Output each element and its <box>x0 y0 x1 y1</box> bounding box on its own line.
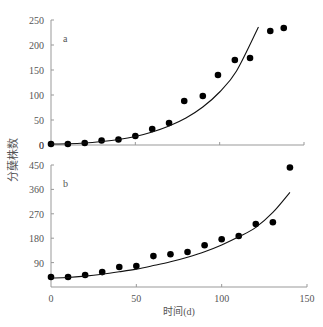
x-tick-label: 50 <box>131 293 141 304</box>
x-tick-label: 100 <box>214 293 229 304</box>
y-axis-label: 分蘖株数 <box>6 138 19 182</box>
y-tick-label: 360 <box>29 184 44 195</box>
data-point <box>270 219 277 226</box>
y-tick-label: 250 <box>29 15 44 26</box>
data-point <box>247 55 254 62</box>
data-point <box>287 164 294 171</box>
chart-svg: 0501001502002500a 9018027036045005010015… <box>0 0 323 327</box>
panel-b: 90180270360450050100150b <box>29 160 315 304</box>
x-tick-label: 150 <box>300 293 315 304</box>
data-point <box>181 98 188 105</box>
data-point <box>215 72 222 79</box>
y-tick-label: 100 <box>29 90 44 101</box>
y-tick-label: 0 <box>39 140 44 151</box>
data-point <box>150 253 157 260</box>
data-point <box>116 264 123 271</box>
data-point <box>218 236 225 243</box>
panel-a: 0501001502002500a <box>29 15 304 151</box>
data-point <box>200 93 207 100</box>
panel-label: a <box>63 33 68 44</box>
data-point <box>280 25 287 32</box>
data-point <box>48 274 55 281</box>
data-point <box>201 242 208 249</box>
y-tick-label: 200 <box>29 40 44 51</box>
data-point <box>98 137 105 144</box>
y-tick-label: 450 <box>29 160 44 171</box>
y-tick-label: 90 <box>34 258 44 269</box>
y-tick-label: 50 <box>34 115 44 126</box>
x-axis-label: 时间(d) <box>163 305 195 318</box>
data-point <box>82 272 89 279</box>
fitted-curve <box>51 27 258 144</box>
y-tick-label: 270 <box>29 209 44 220</box>
chart-figure: 0501001502002500a 9018027036045005010015… <box>0 0 323 327</box>
fitted-curve <box>51 192 290 278</box>
data-point <box>253 221 260 228</box>
x-tick-label: 0 <box>49 293 54 304</box>
y-tick-label: 180 <box>29 233 44 244</box>
data-point <box>184 249 191 256</box>
y-tick-label: 150 <box>29 65 44 76</box>
panel-label: b <box>63 178 68 189</box>
data-point <box>232 57 239 64</box>
data-point <box>167 251 174 258</box>
data-point <box>267 28 274 35</box>
